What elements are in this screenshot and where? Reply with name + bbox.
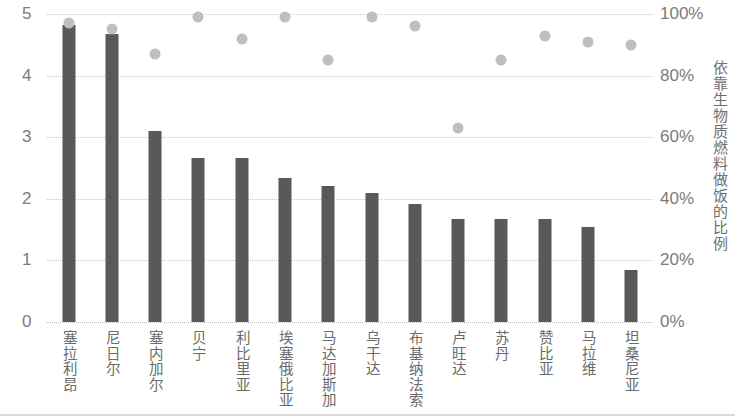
bar-group xyxy=(350,14,393,322)
bar-group xyxy=(220,14,263,322)
bar xyxy=(495,219,508,322)
bar-group xyxy=(134,14,177,322)
x-axis-tick-label: 乌干达 xyxy=(350,330,393,377)
x-axis-tick-label: 马达加斯加 xyxy=(307,330,350,408)
x-axis-tick-label-text: 马拉维 xyxy=(578,330,599,377)
plot-area xyxy=(47,14,653,322)
bar xyxy=(235,158,248,322)
bar xyxy=(625,270,638,322)
bar-group xyxy=(393,14,436,322)
scatter-point xyxy=(453,122,464,133)
data-series-group xyxy=(47,14,653,322)
scatter-point xyxy=(63,18,74,29)
scatter-point xyxy=(626,39,637,50)
x-axis-tick-label-text: 埃塞俄比亚 xyxy=(275,330,296,408)
bar-group xyxy=(480,14,523,322)
x-axis-tick-label: 埃塞俄比亚 xyxy=(263,330,306,408)
x-axis-tick-label: 苏丹 xyxy=(480,330,523,361)
bar xyxy=(538,219,551,322)
scatter-point xyxy=(106,24,117,35)
x-axis-tick-label-text: 乌干达 xyxy=(361,330,382,377)
bar-group xyxy=(566,14,609,322)
bar xyxy=(365,193,378,322)
y-axis-left-tick-label: 4 xyxy=(22,66,31,86)
y-axis-left-tick-label: 0 xyxy=(22,312,31,332)
y-axis-right-tick-label: 80% xyxy=(660,66,694,86)
bar xyxy=(322,186,335,322)
scatter-point xyxy=(583,36,594,47)
y-axis-right-tick-label: 40% xyxy=(660,189,694,209)
bar-group xyxy=(610,14,653,322)
x-axis-tick-label-text: 塞内加尔 xyxy=(145,330,166,392)
bar-group xyxy=(263,14,306,322)
bar xyxy=(105,34,118,322)
y-axis-right-tick-label: 0% xyxy=(660,312,685,332)
bar-group xyxy=(523,14,566,322)
x-axis-tick-label: 塞内加尔 xyxy=(134,330,177,392)
y-axis-left-tick-label: 3 xyxy=(22,127,31,147)
bar-group xyxy=(307,14,350,322)
x-axis-tick-label: 贝宁 xyxy=(177,330,220,361)
chart-container: 012345 0%20%40%60%80%100% 小时 依靠生物质燃料做饭的比… xyxy=(0,0,735,416)
scatter-point xyxy=(496,55,507,66)
bar xyxy=(452,219,465,322)
bar xyxy=(582,227,595,322)
scatter-point xyxy=(150,49,161,60)
y-axis-left-tick-label: 2 xyxy=(22,189,31,209)
x-axis-tick-label: 马拉维 xyxy=(566,330,609,377)
x-axis-tick-label: 尼日尔 xyxy=(90,330,133,377)
x-axis-tick-label-text: 坦桑尼亚 xyxy=(621,330,642,392)
scatter-point xyxy=(366,12,377,23)
x-axis-tick-label-text: 贝宁 xyxy=(188,330,209,361)
y-axis-left-tick-label: 1 xyxy=(22,250,31,270)
bar xyxy=(408,204,421,322)
x-axis-tick-label: 利比里亚 xyxy=(220,330,263,392)
x-axis-tick-label: 塞拉利昂 xyxy=(47,330,90,392)
x-axis-tick-label-text: 利比里亚 xyxy=(231,330,252,392)
bar xyxy=(192,158,205,322)
x-axis-tick-label-text: 卢旺达 xyxy=(448,330,469,377)
x-axis-tick-label-text: 塞拉利昂 xyxy=(58,330,79,392)
scatter-point xyxy=(323,55,334,66)
y-axis-right-title: 依靠生物质燃料做饭的比例 xyxy=(709,60,730,252)
x-axis-tick-label-text: 马达加斯加 xyxy=(318,330,339,408)
y-axis-right-tick-label: 100% xyxy=(660,4,703,24)
x-axis-labels: 塞拉利昂尼日尔塞内加尔贝宁利比里亚埃塞俄比亚马达加斯加乌干达布基纳法索卢旺达苏丹… xyxy=(47,330,653,416)
y-axis-left-tick-label: 5 xyxy=(22,4,31,24)
scatter-point xyxy=(539,30,550,41)
bar-group xyxy=(437,14,480,322)
bar xyxy=(279,178,292,322)
x-axis-tick-label-text: 苏丹 xyxy=(491,330,512,361)
y-axis-right-tick-label: 20% xyxy=(660,250,694,270)
y-axis-right-tick-label: 60% xyxy=(660,127,694,147)
x-axis-tick-label-text: 尼日尔 xyxy=(101,330,122,377)
scatter-point xyxy=(409,21,420,32)
scatter-point xyxy=(280,12,291,23)
bar xyxy=(62,25,75,322)
x-axis-tick-label: 布基纳法索 xyxy=(393,330,436,408)
x-axis-tick-label: 卢旺达 xyxy=(437,330,480,377)
scatter-point xyxy=(236,33,247,44)
x-axis-tick-label: 坦桑尼亚 xyxy=(610,330,653,392)
x-axis-tick-label-text: 布基纳法索 xyxy=(404,330,425,408)
bar-group xyxy=(90,14,133,322)
x-axis-tick-label: 赞比亚 xyxy=(523,330,566,377)
gridline xyxy=(47,322,653,323)
bar-group xyxy=(47,14,90,322)
bar xyxy=(149,131,162,322)
bar-group xyxy=(177,14,220,322)
scatter-point xyxy=(193,12,204,23)
x-axis-tick-label-text: 赞比亚 xyxy=(534,330,555,377)
